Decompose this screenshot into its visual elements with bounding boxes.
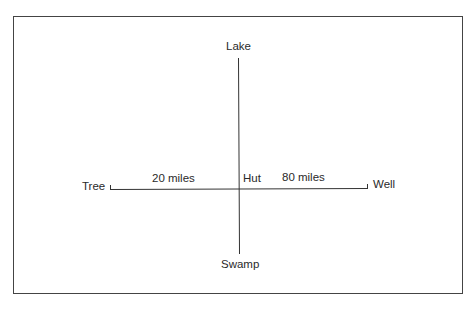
label-well: Well [373,178,395,191]
label-tree: Tree [82,180,105,193]
label-lake: Lake [226,40,251,53]
distance-hut-well: 80 miles [282,171,325,184]
vertical-line-lake-swamp [239,58,240,254]
label-hut: Hut [243,172,261,185]
horizontal-line-tree-well [110,189,367,190]
distance-tree-hut: 20 miles [152,172,195,185]
label-swamp: Swamp [221,258,259,271]
